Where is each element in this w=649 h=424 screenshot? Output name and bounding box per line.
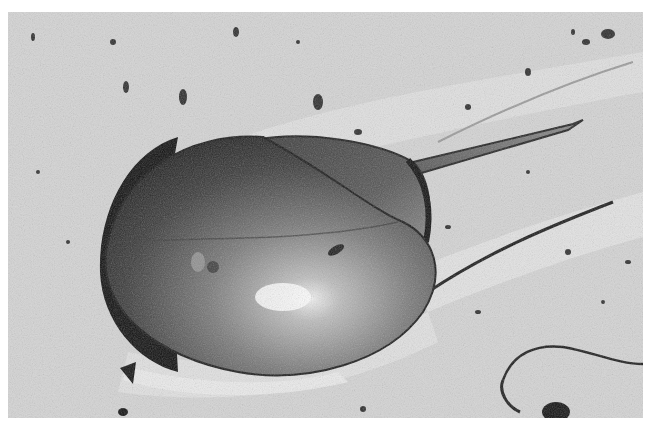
photo-frame: Horseshoe crab on sand: [0, 0, 649, 424]
photograph: Horseshoe crab on sand: [8, 12, 643, 418]
film-grain: [8, 12, 643, 418]
horseshoe-crab-scene: [8, 12, 643, 418]
